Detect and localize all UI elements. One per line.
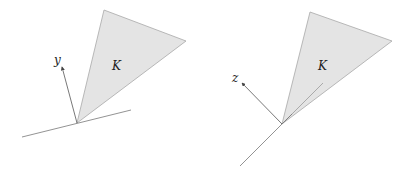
z-vector-arrow (242, 83, 282, 124)
supporting-line-left (22, 110, 131, 137)
left-figure: y K (22, 10, 186, 137)
y-vector-label: y (53, 53, 61, 67)
right-figure: z K (231, 12, 392, 166)
supporting-line-right (240, 114, 292, 166)
y-vector-arrow (62, 67, 77, 123)
diagram-canvas: y K z K (0, 0, 411, 172)
cone-k-left (77, 10, 186, 123)
cone-label-left: K (111, 59, 122, 73)
z-vector-label: z (231, 71, 239, 85)
cone-label-right: K (317, 59, 328, 73)
